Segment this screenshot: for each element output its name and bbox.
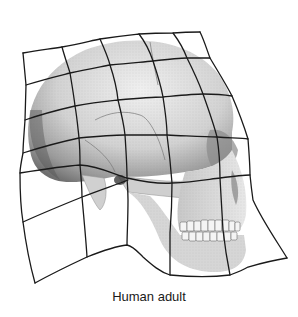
skull-illustration: [0, 0, 298, 317]
grid-bottom-edge: [35, 245, 287, 283]
figure-caption: Human adult: [0, 289, 298, 304]
skull-cranium: [28, 40, 233, 182]
grid-line-h5: [23, 180, 128, 222]
skull-grid-figure: Human adult: [0, 0, 298, 317]
teeth: [180, 220, 240, 241]
grid-line-v0: [20, 53, 35, 283]
